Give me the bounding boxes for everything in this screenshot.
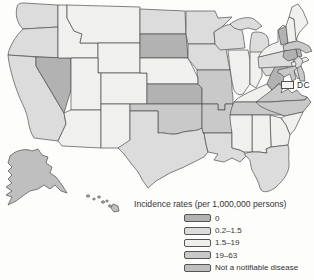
legend-row: 1.5–19 (184, 237, 298, 249)
legend-label-0: 0 (215, 214, 219, 223)
legend-label-2: 1.5–19 (215, 238, 239, 247)
state-oregon[interactable] (8, 27, 58, 58)
state-alabama[interactable] (252, 115, 271, 153)
state-nebraska[interactable] (140, 58, 198, 84)
state-alaska[interactable] (6, 149, 67, 205)
legend-swatch-3 (184, 251, 211, 259)
legend-swatch-0 (184, 214, 211, 222)
dc-swatch (281, 81, 294, 89)
legend-label-3: 19–63 (215, 251, 237, 260)
state-mississippi[interactable] (230, 115, 252, 152)
state-kansas[interactable] (147, 84, 202, 104)
legend-title: Incidence rates (per 1,000,000 persons) (134, 199, 286, 209)
state-new-mexico[interactable] (101, 104, 130, 148)
states-group (6, 3, 312, 212)
dc-key: DC (281, 80, 310, 90)
map-legend: 0 0.2–1.5 1.5–19 19–63 Not a notifiable … (184, 212, 298, 274)
state-arizona[interactable] (58, 110, 101, 148)
legend-row: 0.2–1.5 (184, 224, 298, 236)
state-hawaii[interactable] (86, 195, 119, 212)
state-colorado[interactable] (101, 73, 147, 104)
legend-label-1: 0.2–1.5 (215, 226, 242, 235)
legend-label-4: Not a notifiable disease (215, 263, 298, 272)
state-arkansas[interactable] (202, 104, 233, 133)
legend-swatch-4 (184, 264, 211, 272)
figure-us-incidence-map: DC Incidence rates (per 1,000,000 person… (0, 0, 314, 280)
state-north-dakota[interactable] (140, 9, 186, 34)
legend-row: 19–63 (184, 249, 298, 261)
legend-row: 0 (184, 212, 298, 224)
state-michigan-upper[interactable] (230, 18, 262, 30)
state-washington[interactable] (16, 3, 58, 29)
state-south-dakota[interactable] (140, 34, 188, 58)
state-wyoming[interactable] (98, 43, 140, 73)
legend-swatch-1 (184, 227, 211, 235)
legend-row: Not a notifiable disease (184, 262, 298, 274)
state-utah[interactable] (71, 58, 101, 110)
dc-label: DC (297, 80, 310, 90)
legend-swatch-2 (184, 239, 211, 247)
state-florida[interactable] (245, 145, 289, 192)
